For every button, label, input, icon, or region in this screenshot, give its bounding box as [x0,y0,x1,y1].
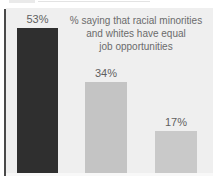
bar [85,82,127,173]
bar-chart-screenshot: % saying that racial minorities and whit… [0,0,213,176]
bar [17,28,58,173]
bar [155,131,197,173]
bar-value-label: 17% [151,116,201,129]
bar-value-label: 34% [81,67,131,80]
y-axis-line [4,9,6,176]
baseline-strip [6,173,213,176]
chart-title: % saying that racial minorities and whit… [53,14,213,53]
